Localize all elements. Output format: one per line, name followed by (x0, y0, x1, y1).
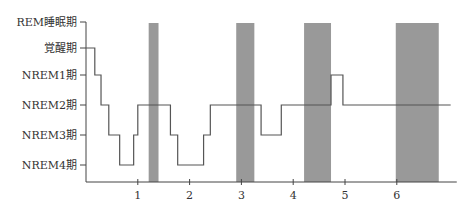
rem-band (149, 23, 159, 182)
y-tick-label: NREM3期 (22, 129, 77, 142)
x-tick-label: 2 (186, 189, 193, 202)
x-tick-label: 6 (393, 189, 400, 202)
y-tick-label: REM睡眠期 (16, 16, 77, 29)
rem-band (304, 23, 331, 182)
y-tick-label: NREM1期 (22, 69, 77, 82)
y-tick-label: 覚醒期 (44, 42, 77, 55)
rem-band (396, 23, 439, 182)
x-tick-label: 1 (134, 189, 141, 202)
y-tick-label: NREM2期 (22, 99, 77, 112)
y-tick-label: NREM4期 (22, 159, 77, 172)
x-tick-label: 3 (238, 189, 245, 202)
x-tick-label: 4 (290, 189, 297, 202)
rem-band (236, 23, 254, 182)
x-tick-label: 5 (342, 189, 349, 202)
hypnogram-chart: REM睡眠期覚醒期NREM1期NREM2期NREM3期NREM4期123456 (0, 0, 465, 211)
